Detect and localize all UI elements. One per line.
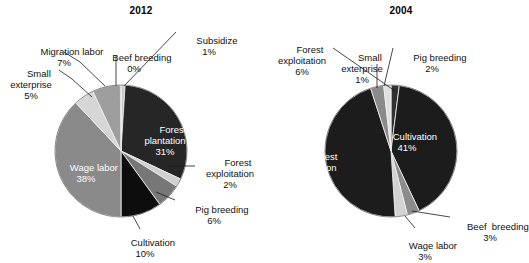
slice-name: Smallexterprise [10,68,52,90]
slice-name: Forestplantation [144,124,186,146]
pie-panel-2012: 2012 Forestplantation31% Wage labor38% M… [0,0,264,263]
slice-callout-small-exterprise-2012: Smallexterprise5% [0,57,62,123]
slice-percent: 31% [130,146,200,157]
slice-percent: 5% [0,90,62,101]
slice-name: Smallexterprise [341,52,383,74]
slice-percent: 6% [176,215,252,226]
slice-name: Pig breeding [195,204,248,215]
slice-name: Beef breeding [467,221,529,232]
slice-name: Migration labor [41,46,104,57]
slice-percent: 0% [96,63,172,74]
slice-percent: 1% [177,46,241,57]
slice-name: Wage labor [70,162,118,173]
leader-line-beef-breeding-2004 [412,211,450,217]
slice-name: Forestexploitation [278,44,326,66]
slice-percent: 41% [369,142,445,153]
slice-percent: 1% [331,74,393,85]
slice-percent: 10% [109,248,181,259]
slice-percent: 2% [394,63,470,74]
slice-name: Wage labor [409,240,457,251]
slice-callout-subsidize-2012: Subsidize1% [177,24,241,79]
slice-callout-wage-labor-2004: Wage labor3% [387,229,463,263]
slice-name: Subsidize [196,35,237,46]
slice-inside-label-cultivation-2004: Cultivation41% [369,120,445,175]
slice-inside-label-wage-labor-2012: Wage labor38% [48,151,124,206]
slice-callout-pig-breeding-2012: Pig breeding6% [176,193,252,248]
slice-callout-forest-exploitation-2004: Forestexploitation6% [265,33,339,99]
slice-callout-pig-breeding-2004: Pig breeding2% [394,41,470,96]
slice-percent: 38% [48,173,124,184]
slice-percent: 6% [265,66,339,77]
slice-percent: 46% [281,173,351,184]
slice-name: Pig breeding [413,52,466,63]
slice-callout-beef-breeding-2012: Beef breeding0% [96,41,172,96]
pie-panel-2004: 2004 Cultivation41% Forestplantation46% … [265,0,529,263]
pie-chart-figure: 2012 Forestplantation31% Wage labor38% M… [0,0,529,263]
slice-percent: 3% [387,251,463,262]
slice-name: Cultivation [131,237,175,248]
slice-name: Cultivation [393,131,437,142]
slice-percent: 2% [196,179,264,190]
slice-inside-label-forest-plantation-2012: Forestplantation31% [130,113,200,179]
slice-inside-label-forest-plantation-2004: Forestplantation46% [281,140,351,206]
slice-callout-small-exterprise-2004: Smallexterprise1% [331,41,393,107]
slice-name: Forestplantation [295,151,337,173]
leader-line-wage-labor-2004 [405,216,415,228]
slice-name: Forestexploitation [206,157,254,179]
slice-callout-cultivation-2012: Cultivation10% [109,226,181,263]
slice-name: Beef breeding [112,52,171,63]
